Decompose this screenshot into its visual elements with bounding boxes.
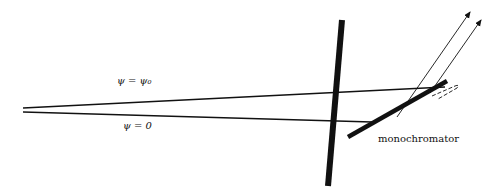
diagram-canvas: ψ = ψ₀ ψ = 0 monochromator <box>0 0 502 196</box>
beam-psi-psi0 <box>23 87 445 108</box>
label-monochromator: monochromator <box>378 133 459 144</box>
label-psi-psi0: ψ = ψ₀ <box>117 75 151 86</box>
diagram-drawing <box>0 0 502 196</box>
beam-psi-0 <box>23 112 372 122</box>
diffracted-beam-1 <box>397 12 470 117</box>
diffracted-beam-2 <box>430 20 481 93</box>
label-psi-0: ψ = 0 <box>123 120 152 131</box>
slit-bar <box>328 20 342 186</box>
